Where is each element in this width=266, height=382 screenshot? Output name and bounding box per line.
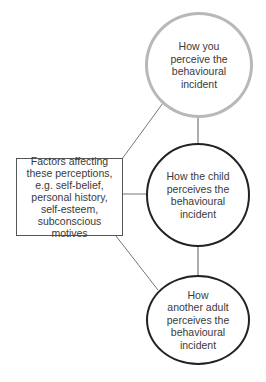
factors-box: Factors affecting these perceptions, e.g… (16, 158, 123, 236)
connector-factors-to-adult (116, 236, 158, 290)
node-adult-perceives: How another adult perceives the behaviou… (146, 275, 250, 365)
node-adult-perceives-label: How another adult perceives the behaviou… (167, 289, 229, 352)
node-you-perceive-label: How you perceive the behavioural inciden… (170, 40, 227, 90)
connector-factors-to-you (122, 103, 163, 159)
factors-box-label: Factors affecting these perceptions, e.g… (27, 155, 113, 239)
node-child-perceives-label: How the child perceives the behavioural … (166, 170, 229, 220)
node-child-perceives: How the child perceives the behavioural … (146, 143, 250, 247)
node-you-perceive: How you perceive the behavioural inciden… (145, 12, 253, 118)
